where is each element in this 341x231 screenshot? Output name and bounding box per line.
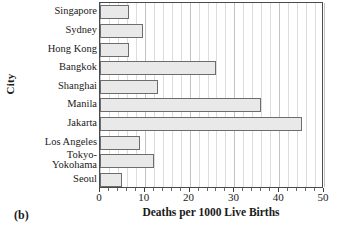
x-tick-label: 50	[308, 191, 338, 204]
x-axis-tick-labels: 01020304050	[99, 191, 323, 205]
category-label: Shanghai	[14, 81, 97, 92]
x-tick-label: 40	[263, 191, 293, 204]
category-label: Seoul	[14, 174, 97, 185]
bar	[100, 154, 154, 168]
plot-area	[99, 2, 323, 188]
category-label: Bangkok	[14, 62, 97, 73]
category-label: Manila	[14, 99, 97, 110]
category-label-column: SingaporeSydneyHong KongBangkokShanghaiM…	[14, 2, 97, 188]
bar	[100, 98, 261, 112]
category-label: Jakarta	[14, 118, 97, 129]
bar-series	[100, 3, 322, 187]
category-label: Sydney	[14, 25, 97, 36]
category-label: Singapore	[14, 6, 97, 17]
bar	[100, 117, 302, 131]
panel-label: (b)	[14, 208, 29, 223]
x-tick-label: 20	[174, 191, 204, 204]
bar-chart-figure: City SingaporeSydneyHong KongBangkokShan…	[0, 0, 341, 231]
bar	[100, 173, 122, 187]
category-label-line2: Yokohama	[14, 160, 97, 170]
bar	[100, 43, 129, 57]
x-tick-label: 30	[218, 191, 248, 204]
bar	[100, 61, 216, 75]
bar	[100, 5, 129, 19]
category-label: Tokyo-Yokohama	[14, 150, 97, 170]
x-tick-label: 10	[129, 191, 159, 204]
x-tick-label: 0	[84, 191, 114, 204]
category-label: Hong Kong	[14, 44, 97, 55]
category-label: Los Angeles	[14, 137, 97, 148]
x-axis-title: Deaths per 1000 Live Births	[99, 206, 323, 218]
bar	[100, 80, 158, 94]
bar	[100, 24, 143, 38]
bar	[100, 136, 140, 150]
gridline-major	[324, 3, 325, 187]
